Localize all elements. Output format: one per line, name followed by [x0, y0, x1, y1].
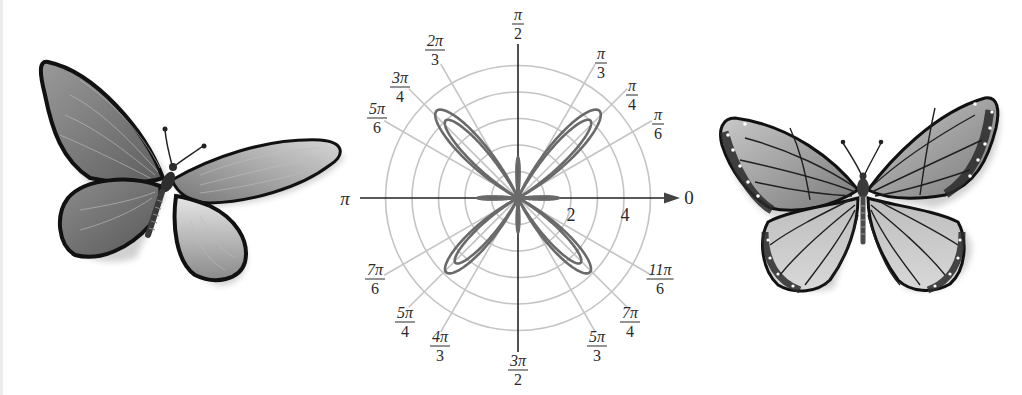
angle-label-4pi-3: 4π3	[430, 329, 450, 364]
grid-ray	[409, 89, 518, 198]
angle-label-5pi-6: 5π6	[367, 101, 387, 136]
axis-label-pi: π	[340, 188, 350, 210]
axis-label-pi-over-2: π 2	[512, 7, 524, 42]
grid-ray	[518, 89, 627, 198]
polar-graph	[0, 0, 1022, 395]
angle-label-5pi-3: 5π3	[587, 329, 607, 364]
angle-label-7pi-6: 7π6	[365, 262, 385, 297]
axis-label-3pi-over-2: 3π 2	[508, 353, 528, 388]
angle-label-pi-4: π4	[626, 78, 638, 113]
angle-label-3pi-4: 3π4	[390, 70, 410, 105]
angle-label-pi-3: π3	[595, 46, 607, 81]
grid-ray	[409, 198, 518, 307]
x-axis-arrowhead	[664, 193, 680, 204]
angle-label-pi-6: π6	[652, 107, 664, 142]
radial-tick-2: 2	[567, 205, 576, 226]
polar-butterfly-figure: 0 π π 2 3π 2 2 4 π3 π4 π6 2π3 3π4 5π6 7π…	[0, 0, 1022, 395]
axis-label-zero: 0	[684, 187, 694, 209]
angle-label-2pi-3: 2π3	[425, 33, 445, 68]
radial-tick-4: 4	[621, 205, 630, 226]
angle-label-11pi-6: 11π6	[647, 262, 674, 297]
angle-label-7pi-4: 7π4	[620, 305, 640, 340]
angle-label-5pi-4: 5π4	[395, 305, 415, 340]
